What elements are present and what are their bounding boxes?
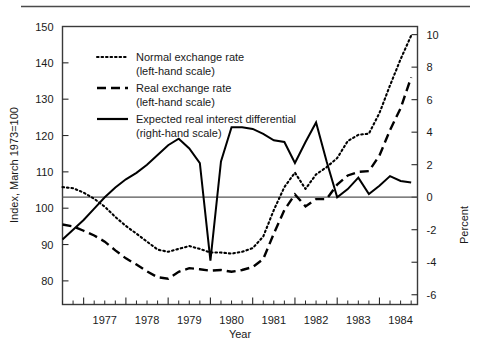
x-tick-label: 1981	[262, 314, 286, 326]
x-tick-label: 1979	[177, 314, 201, 326]
y-tick-label-left: 120	[35, 130, 53, 142]
legend-label-interest-diff: Expected real interest differential	[136, 113, 296, 125]
x-tick-label: 1982	[304, 314, 328, 326]
x-axis-title: Year	[229, 328, 252, 340]
y-tick-label-right: -2	[427, 224, 437, 236]
x-tick-label: 1980	[219, 314, 243, 326]
y-axis-right-ticks: -6-4-20246810	[412, 29, 439, 301]
y-tick-label-left: 100	[35, 202, 53, 214]
x-tick-label: 1977	[93, 314, 117, 326]
y-tick-label-right: -4	[427, 256, 437, 268]
y-tick-label-right: -6	[427, 289, 437, 301]
y-tick-label-right: 6	[427, 94, 433, 106]
y-tick-label-right: 8	[427, 61, 433, 73]
legend-label-normal-rate: Normal exchange rate	[136, 51, 244, 63]
x-tick-label: 1978	[135, 314, 159, 326]
y-tick-label-left: 90	[41, 239, 53, 251]
y-tick-label-left: 130	[35, 93, 53, 105]
chart-figure: 8090100110120130140150 -6-4-20246810 197…	[0, 0, 486, 355]
y-tick-label-right: 4	[427, 126, 433, 138]
y-tick-label-right: 0	[427, 191, 433, 203]
plot-frame	[63, 27, 418, 305]
y-tick-label-left: 150	[35, 21, 53, 33]
legend-label-real-rate: Real exchange rate	[136, 82, 231, 94]
y-tick-label-left: 80	[41, 275, 53, 287]
y-tick-label-right: 10	[427, 29, 439, 41]
legend-sublabel-interest-diff: (right-hand scale)	[136, 127, 222, 139]
y-axis-right-title: Percent	[458, 206, 470, 244]
chart-legend: Normal exchange rate (left-hand scale) R…	[97, 51, 296, 139]
x-tick-label: 1983	[346, 314, 370, 326]
y-axis-left-title: Index, March 1973=100	[8, 107, 20, 223]
legend-sublabel-real-rate: (left-hand scale)	[136, 96, 215, 108]
y-axis-left-ticks: 8090100110120130140150	[35, 21, 68, 287]
y-tick-label-left: 140	[35, 57, 53, 69]
series-line-normal-exchange-rate	[63, 36, 412, 254]
y-tick-label-right: 2	[427, 159, 433, 171]
y-tick-label-left: 110	[36, 166, 54, 178]
chart-svg: 8090100110120130140150 -6-4-20246810 197…	[0, 0, 486, 355]
data-series-group	[63, 36, 412, 279]
x-tick-label: 1984	[388, 314, 412, 326]
series-line-expected-real-interest-differential	[63, 122, 412, 260]
legend-sublabel-normal-rate: (left-hand scale)	[136, 65, 215, 77]
x-axis-ticks: 19771978197919801981198219831984	[63, 298, 413, 326]
